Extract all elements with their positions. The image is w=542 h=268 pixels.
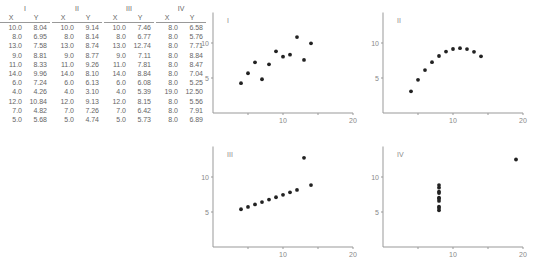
data-point — [267, 62, 271, 66]
data-point — [472, 50, 476, 54]
data-point — [451, 47, 455, 51]
y-tick-label: 5 — [205, 75, 209, 82]
plot-title: III — [227, 151, 233, 158]
data-point — [514, 158, 518, 162]
data-point — [437, 190, 441, 194]
data-point — [437, 54, 441, 58]
data-point — [239, 81, 243, 85]
data-point — [437, 206, 441, 210]
scatter-plot-iii: 1020510III — [201, 147, 357, 259]
x-tick-label: 10 — [279, 117, 287, 124]
axes — [383, 147, 523, 248]
data-point — [295, 35, 299, 39]
x-tick-label: 10 — [449, 117, 457, 124]
data-point — [260, 77, 264, 81]
scatter-plot-i: 1020510I — [201, 13, 357, 125]
data-point — [246, 71, 250, 75]
data-point — [444, 50, 448, 54]
y-tick-label: 10 — [201, 174, 209, 181]
data-point — [295, 188, 299, 192]
data-point — [465, 47, 469, 51]
data-point — [409, 89, 413, 93]
data-point — [281, 55, 285, 59]
data-point — [239, 207, 243, 211]
y-tick-label: 10 — [371, 40, 379, 47]
x-tick-label: 10 — [279, 251, 287, 258]
data-point — [281, 193, 285, 197]
y-tick-label: 10 — [371, 174, 379, 181]
data-point — [288, 190, 292, 194]
data-point — [309, 183, 313, 187]
axes — [383, 13, 523, 114]
scatter-plots: 1020510I1020510II1020510III1020510IV — [0, 0, 542, 268]
plot-title: IV — [397, 151, 404, 158]
scatter-plot-ii: 1020510II — [371, 13, 527, 125]
data-point — [274, 195, 278, 199]
plot-title: I — [227, 17, 229, 24]
x-tick-label: 20 — [519, 251, 527, 258]
data-point — [458, 46, 462, 50]
data-point — [309, 41, 313, 45]
data-point — [437, 186, 441, 190]
data-point — [430, 60, 434, 64]
x-tick-label: 20 — [349, 117, 357, 124]
axes — [213, 147, 353, 248]
axes — [213, 13, 353, 114]
y-tick-label: 10 — [201, 40, 209, 47]
plot-title: II — [397, 17, 401, 24]
data-point — [416, 78, 420, 82]
y-tick-label: 5 — [205, 209, 209, 216]
x-tick-label: 20 — [349, 251, 357, 258]
x-tick-label: 10 — [449, 251, 457, 258]
data-point — [437, 197, 441, 201]
data-point — [288, 53, 292, 57]
data-point — [260, 200, 264, 204]
data-point — [267, 198, 271, 202]
data-point — [479, 54, 483, 58]
y-tick-label: 5 — [375, 209, 379, 216]
data-point — [274, 49, 278, 53]
data-point — [253, 203, 257, 207]
y-tick-label: 5 — [375, 75, 379, 82]
data-point — [302, 58, 306, 62]
data-point — [246, 205, 250, 209]
x-tick-label: 20 — [519, 117, 527, 124]
data-point — [423, 68, 427, 72]
scatter-plot-iv: 1020510IV — [371, 147, 527, 259]
data-point — [302, 156, 306, 160]
data-point — [253, 60, 257, 64]
